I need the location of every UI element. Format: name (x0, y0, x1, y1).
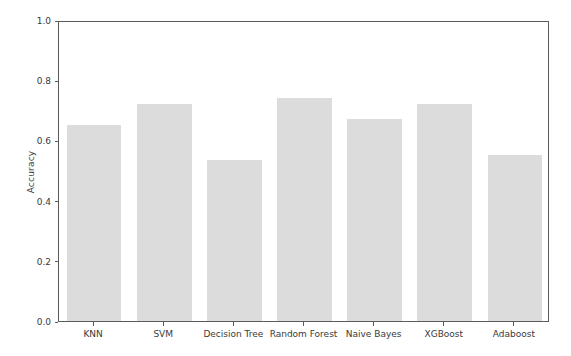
x-tick-label: Naive Bayes (346, 328, 402, 340)
plot-axes (58, 21, 549, 322)
y-tick-mark (55, 81, 59, 82)
bar (488, 155, 543, 321)
x-tick-label: Adaboost (493, 328, 535, 340)
y-axis-label: Accuracy (26, 150, 36, 193)
x-tick-mark (93, 322, 94, 326)
bar (347, 119, 402, 321)
plot-area (59, 22, 548, 321)
y-tick-label: 0.8 (37, 74, 51, 88)
y-tick-label: 0.4 (37, 195, 51, 209)
y-tick-mark (55, 21, 59, 22)
x-tick-mark (163, 322, 164, 326)
x-tick-mark (233, 322, 234, 326)
y-tick-label: 0.0 (37, 315, 51, 329)
bar (417, 104, 472, 321)
y-tick-mark (55, 201, 59, 202)
x-tick-label: KNN (83, 328, 102, 340)
y-tick-mark (55, 261, 59, 262)
bar (67, 125, 122, 321)
y-tick-label: 0.6 (37, 134, 51, 148)
x-tick-label: Random Forest (270, 328, 338, 340)
chart-figure: Accuracy 0.00.20.40.60.81.0 KNNSVMDecisi… (0, 0, 571, 356)
x-tick-mark (303, 322, 304, 326)
bar (207, 160, 262, 321)
x-tick-mark (373, 322, 374, 326)
y-tick-mark (55, 322, 59, 323)
x-tick-label: SVM (153, 328, 173, 340)
bar (137, 104, 192, 321)
y-tick-label: 0.2 (37, 255, 51, 269)
x-tick-mark (513, 322, 514, 326)
x-tick-mark (443, 322, 444, 326)
y-tick-mark (55, 141, 59, 142)
y-tick-label: 1.0 (37, 14, 51, 28)
x-tick-label: Decision Tree (203, 328, 263, 340)
x-tick-label: XGBoost (425, 328, 464, 340)
bar (277, 98, 332, 321)
